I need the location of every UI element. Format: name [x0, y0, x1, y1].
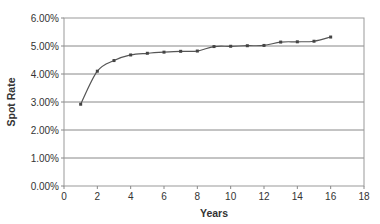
x-tick-label: 0	[61, 191, 67, 202]
data-point	[129, 53, 132, 56]
data-point	[229, 45, 232, 48]
data-point	[96, 70, 99, 73]
data-point	[196, 50, 199, 53]
data-point	[179, 50, 182, 53]
y-axis-ticks: 0.00%1.00%2.00%3.00%4.00%5.00%6.00%	[31, 13, 64, 192]
y-tick-label: 4.00%	[31, 69, 59, 80]
x-tick-label: 12	[258, 191, 270, 202]
data-point	[263, 44, 266, 47]
spot-rate-line	[81, 37, 331, 104]
data-point	[313, 40, 316, 43]
data-point	[296, 40, 299, 43]
data-point	[79, 103, 82, 106]
x-axis-label: Years	[200, 207, 228, 219]
x-axis-ticks: 024681012141618	[61, 186, 370, 202]
y-tick-label: 3.00%	[31, 97, 59, 108]
y-tick-label: 6.00%	[31, 13, 59, 24]
y-tick-label: 2.00%	[31, 125, 59, 136]
x-tick-label: 4	[128, 191, 134, 202]
spot-rate-chart: 0.00%1.00%2.00%3.00%4.00%5.00%6.00% 0246…	[0, 0, 380, 224]
x-tick-label: 18	[358, 191, 370, 202]
data-point	[329, 36, 332, 39]
x-tick-label: 8	[195, 191, 201, 202]
x-tick-label: 6	[161, 191, 167, 202]
data-point	[246, 44, 249, 47]
x-tick-label: 16	[325, 191, 337, 202]
y-tick-label: 1.00%	[31, 153, 59, 164]
x-tick-label: 10	[225, 191, 237, 202]
data-point	[213, 45, 216, 48]
data-point	[163, 51, 166, 54]
data-point	[146, 52, 149, 55]
y-axis-label: Spot Rate	[5, 77, 17, 126]
x-tick-label: 2	[95, 191, 101, 202]
data-point	[279, 41, 282, 44]
x-tick-label: 14	[292, 191, 304, 202]
y-tick-label: 5.00%	[31, 41, 59, 52]
y-tick-label: 0.00%	[31, 181, 59, 192]
data-point	[113, 59, 116, 62]
